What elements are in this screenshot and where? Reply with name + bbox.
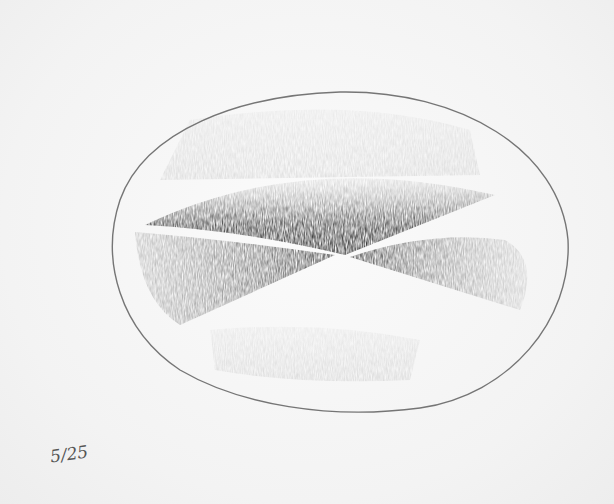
top-light-shading bbox=[160, 110, 480, 180]
bottom-light-shading bbox=[210, 327, 420, 382]
pencil-drawing bbox=[0, 0, 614, 504]
right-sector bbox=[350, 237, 527, 310]
